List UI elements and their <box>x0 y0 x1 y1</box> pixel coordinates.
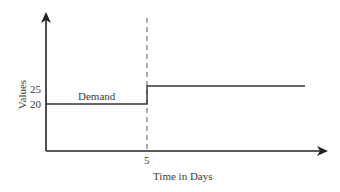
x-tick-5: 5 <box>144 155 150 166</box>
series-label-demand: Demand <box>78 91 115 102</box>
chart-canvas <box>0 0 340 192</box>
y-tick-20: 20 <box>30 99 41 110</box>
y-tick-25: 25 <box>30 84 41 95</box>
x-axis-label: Time in Days <box>153 171 213 182</box>
y-axis-label: Values <box>17 75 28 115</box>
